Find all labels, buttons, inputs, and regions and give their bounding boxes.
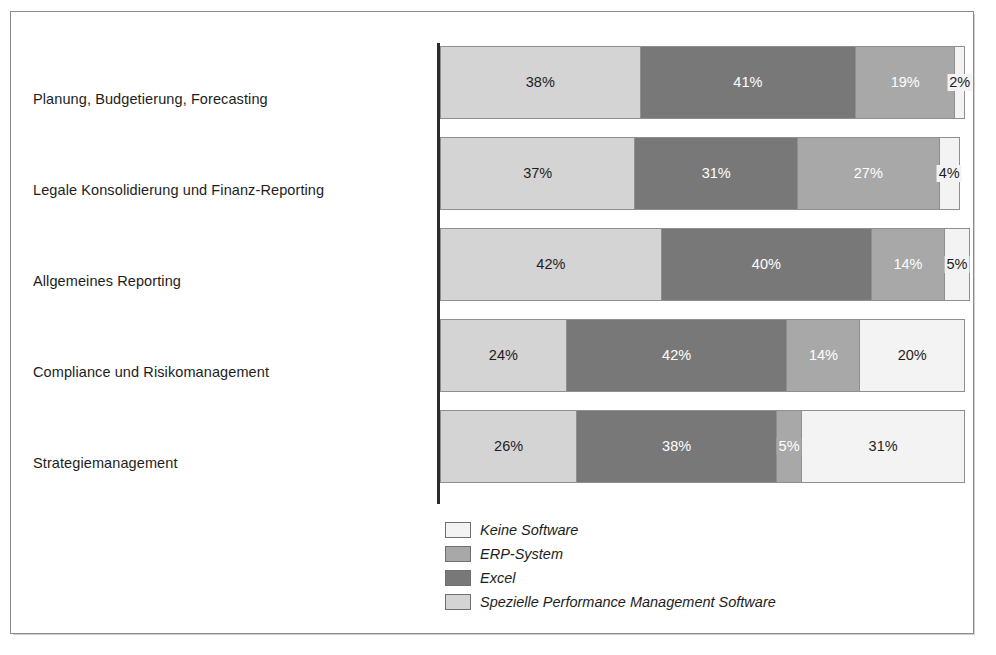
bar-segment: 2%: [954, 46, 965, 119]
bar-segment: 4%: [939, 137, 960, 210]
bar-segment-value-label: 27%: [854, 166, 883, 181]
legend-item-2: Excel: [445, 566, 776, 590]
bar-segment: 26%: [440, 410, 577, 483]
legend-swatch-icon-0: [445, 522, 471, 538]
bar-segment: 41%: [640, 46, 856, 119]
stacked-bar: 26%38%5%31%: [440, 410, 965, 483]
legend-label-0: Keine Software: [480, 522, 578, 538]
bar-segment: 31%: [634, 137, 798, 210]
bar-segment-value-label: 31%: [702, 166, 731, 181]
chart-figure-frame: Planung, Budgetierung, Forecasting Legal…: [10, 11, 974, 634]
bar-segment-value-label: 4%: [937, 165, 962, 182]
bar-segment-value-label: 38%: [526, 75, 555, 90]
bar-segment-value-label: 38%: [662, 439, 691, 454]
bar-segment: 14%: [786, 319, 860, 392]
stacked-bar: 37%31%27%4%: [440, 137, 960, 210]
bar-segment: 19%: [855, 46, 955, 119]
category-label-1: Legale Konsolidierung und Finanz-Reporti…: [33, 182, 425, 198]
category-label-4: Strategiemanagement: [33, 455, 425, 471]
bar-segment: 20%: [859, 319, 965, 392]
legend-label-1: ERP-System: [480, 546, 563, 562]
bar-segment: 42%: [566, 319, 788, 392]
bar-segment-value-label: 42%: [662, 348, 691, 363]
bar-segment-value-label: 14%: [809, 348, 838, 363]
plot-area: Planung, Budgetierung, Forecasting Legal…: [11, 12, 973, 633]
legend-item-1: ERP-System: [445, 542, 776, 566]
bar-segment-value-label: 26%: [494, 439, 523, 454]
bar-segment-value-label: 14%: [893, 257, 922, 272]
bar-segment: 42%: [440, 228, 662, 301]
legend-item-3: Spezielle Performance Management Softwar…: [445, 590, 776, 614]
bar-segment-value-label: 5%: [945, 256, 970, 273]
bar-segment-value-label: 42%: [536, 257, 565, 272]
bar-segment: 40%: [661, 228, 872, 301]
category-label-0: Planung, Budgetierung, Forecasting: [33, 91, 425, 107]
bar-segment: 38%: [440, 46, 641, 119]
legend-label-2: Excel: [480, 570, 515, 586]
bar-segment: 5%: [776, 410, 802, 483]
stacked-bar: 42%40%14%5%: [440, 228, 970, 301]
bar-segment: 14%: [871, 228, 945, 301]
bar-segment: 37%: [440, 137, 635, 210]
bar-segment: 24%: [440, 319, 567, 392]
bar-segment-value-label: 31%: [869, 439, 898, 454]
bar-segment-value-label: 5%: [777, 438, 802, 455]
legend-swatch-icon-2: [445, 570, 471, 586]
stacked-bar: 24%42%14%20%: [440, 319, 965, 392]
legend-swatch-icon-1: [445, 546, 471, 562]
category-label-2: Allgemeines Reporting: [33, 273, 425, 289]
chart-legend: Keine Software ERP-System Excel Speziell…: [445, 518, 776, 614]
bar-segment-value-label: 2%: [947, 74, 972, 91]
bar-segment-value-label: 24%: [489, 348, 518, 363]
bar-segment: 38%: [576, 410, 777, 483]
legend-label-3: Spezielle Performance Management Softwar…: [480, 594, 776, 610]
bar-segment: 27%: [797, 137, 940, 210]
legend-swatch-icon-3: [445, 594, 471, 610]
bar-segment-value-label: 20%: [898, 348, 927, 363]
legend-item-0: Keine Software: [445, 518, 776, 542]
stacked-bar: 38%41%19%2%: [440, 46, 965, 119]
bar-segment-value-label: 19%: [891, 75, 920, 90]
bar-segment: 5%: [944, 228, 970, 301]
bar-segment-value-label: 41%: [733, 75, 762, 90]
bar-segment: 31%: [801, 410, 965, 483]
bar-segment-value-label: 40%: [752, 257, 781, 272]
category-label-3: Compliance und Risikomanagement: [33, 364, 425, 380]
bar-segment-value-label: 37%: [523, 166, 552, 181]
